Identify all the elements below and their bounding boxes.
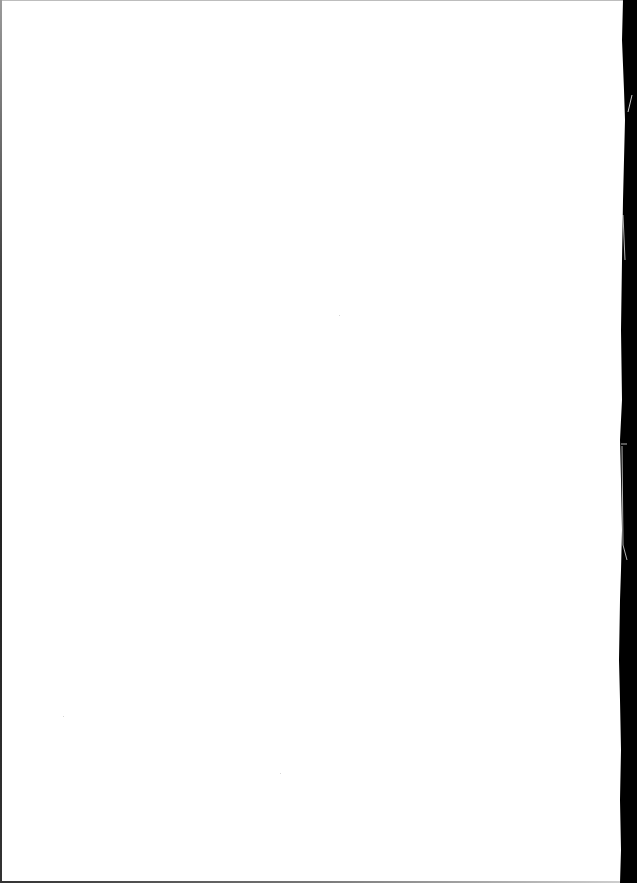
scanned-page [0, 0, 637, 883]
left-scan-edge [0, 0, 2, 883]
top-scan-border [0, 0, 624, 1]
scan-speck [339, 315, 340, 316]
scan-speck [280, 773, 281, 774]
blank-paper-sheet [0, 0, 624, 883]
scan-speck [63, 716, 64, 717]
right-scanner-shadow-band [617, 0, 637, 883]
